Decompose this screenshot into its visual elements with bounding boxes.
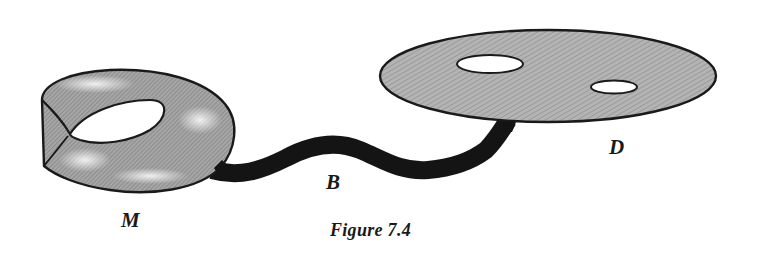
connecting-band <box>212 120 508 173</box>
mobius-band <box>42 70 234 192</box>
disk-hole-small <box>591 81 637 94</box>
figure-caption: Figure 7.4 <box>330 221 411 239</box>
label-mobius-m: M <box>121 210 140 231</box>
disk-with-holes <box>380 30 716 122</box>
label-band-b: B <box>326 172 340 193</box>
disk-hole-large <box>457 55 523 73</box>
label-disk-d: D <box>609 137 624 158</box>
